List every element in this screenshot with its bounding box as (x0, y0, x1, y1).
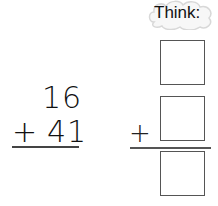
answer-box-sum[interactable] (160, 151, 205, 196)
plus-sign-think: + (129, 118, 151, 148)
answer-box-1[interactable] (160, 40, 205, 85)
sum-line-problem (12, 146, 79, 148)
sum-line-think (130, 147, 211, 149)
think-label: Think: (154, 3, 200, 23)
addend-top: 16 (42, 80, 82, 115)
plus-sign-problem: + (12, 114, 37, 149)
answer-box-2[interactable] (160, 96, 205, 141)
addend-bottom: 41 (47, 114, 87, 149)
